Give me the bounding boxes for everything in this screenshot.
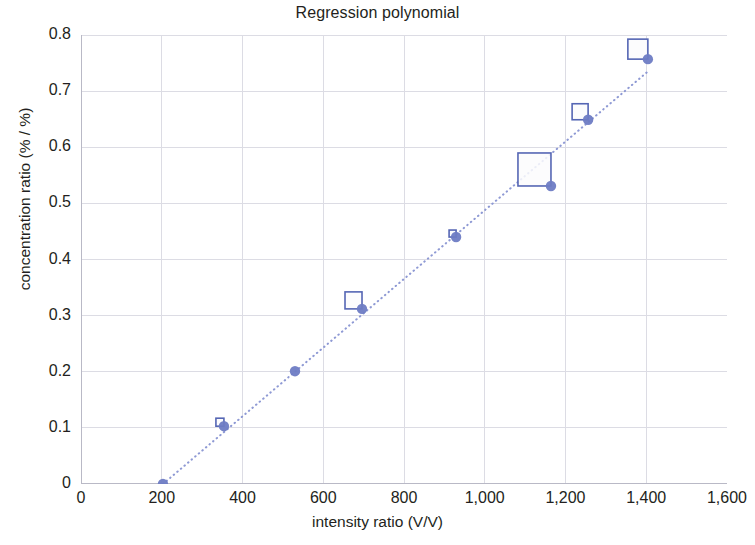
x-tick-label: 400 [203,489,283,507]
x-tick-label: 1,000 [445,489,525,507]
chart-title: Regression polynomial [0,4,755,22]
y-axis-title: concentration ratio (% / %) [16,0,34,399]
chart-figure: Regression polynomial 00.10.20.30.40.50.… [0,0,755,545]
x-axis-title: intensity ratio (V/V) [0,513,755,531]
x-tick-label: 1,200 [526,489,606,507]
regression-fit-line [163,71,648,484]
x-tick-label: 600 [283,489,363,507]
plot-area [81,35,727,484]
grid-lines [81,35,727,484]
x-tick-label: 800 [364,489,444,507]
plot-svg [81,35,727,484]
x-tick-label: 1,600 [687,489,755,507]
x-tick-label: 200 [122,489,202,507]
y-tick-label: 0.1 [11,418,71,436]
residual-box-markers [216,39,648,426]
x-tick-label: 1,400 [606,489,686,507]
x-tick-label: 0 [41,489,121,507]
